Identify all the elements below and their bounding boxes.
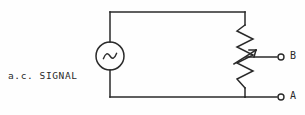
ac-source-sine-icon	[104, 54, 117, 59]
ac-source-label-line2: SOURCE	[8, 113, 78, 115]
terminal-b-node	[278, 54, 284, 60]
terminal-a-label: A	[290, 90, 297, 101]
terminal-a-node	[278, 94, 284, 100]
ac-source-label: a.c. SIGNAL SOURCE	[8, 38, 78, 115]
ac-source-label-line1: a.c. SIGNAL	[8, 68, 78, 83]
circuit-diagram-canvas: a.c. SIGNAL SOURCE B A	[0, 0, 305, 115]
terminal-b-label: B	[290, 50, 297, 61]
